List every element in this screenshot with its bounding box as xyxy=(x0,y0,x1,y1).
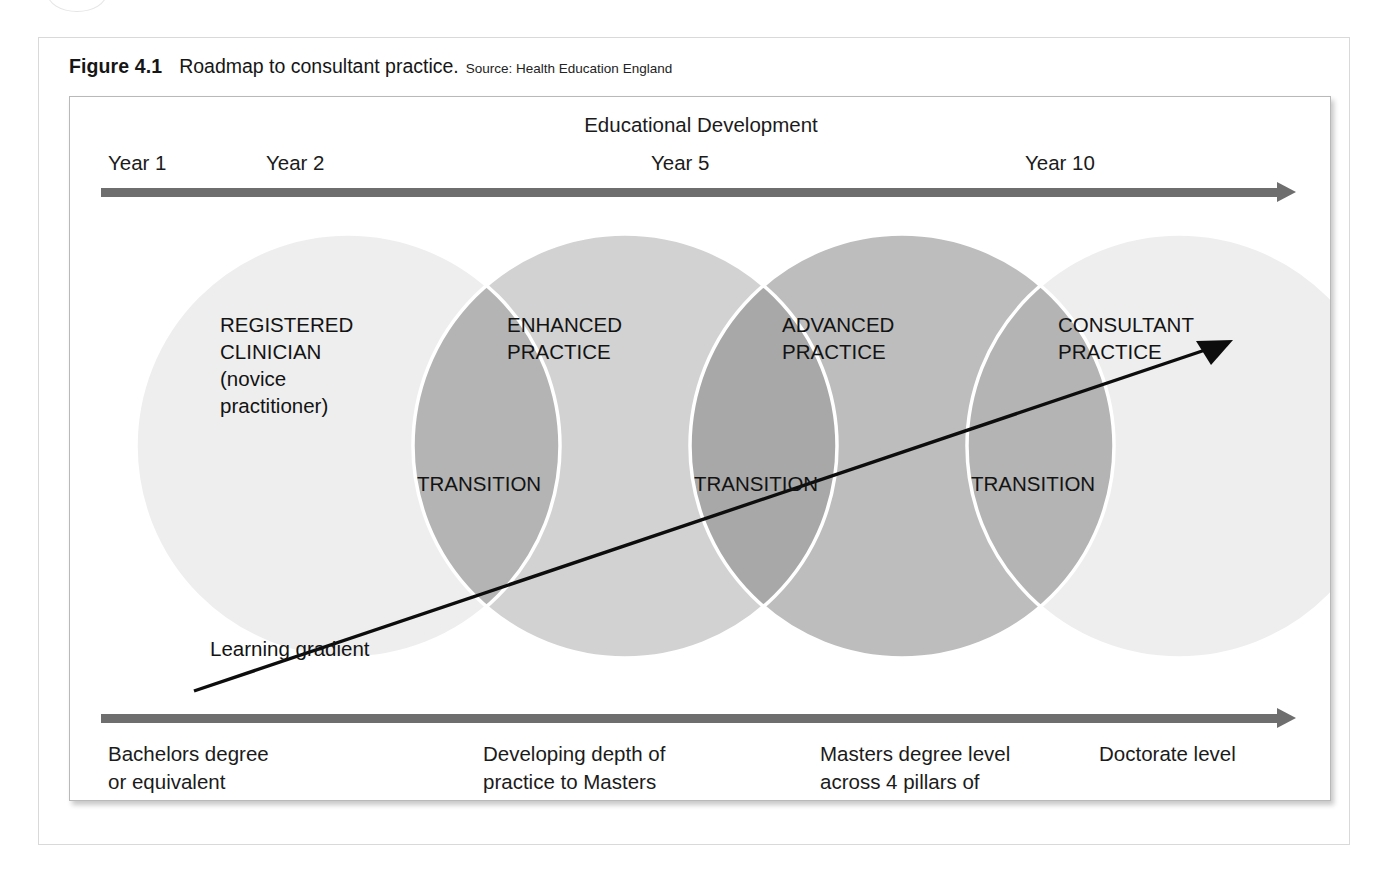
academic-note-1: Bachelors degree or equivalent xyxy=(108,740,269,795)
stage-label-enhanced-practice: ENHANCED PRACTICE xyxy=(507,311,622,365)
transition-label-2: TRANSITION xyxy=(694,472,818,496)
academic-note-4: Doctorate level xyxy=(1099,740,1236,768)
stage-label-registered-clinician: REGISTERED CLINICIAN (novice practitione… xyxy=(220,311,353,419)
learning-gradient-label: Learning gradient xyxy=(210,637,370,661)
page-root: Figure 4.1Roadmap to consultant practice… xyxy=(0,0,1399,884)
figure-number: Figure 4.1 xyxy=(69,55,162,77)
diagram-canvas: Educational Development Year 1 Year 2 Ye… xyxy=(70,97,1331,801)
academic-note-2: Developing depth of practice to Masters … xyxy=(483,740,665,801)
bottom-academic-arrow xyxy=(101,714,1296,723)
stage-label-advanced-practice: ADVANCED PRACTICE xyxy=(782,311,894,365)
transition-label-3: TRANSITION xyxy=(971,472,1095,496)
figure-source: Source: Health Education England xyxy=(466,61,672,76)
transition-label-1: TRANSITION xyxy=(417,472,541,496)
page-top-ghost-mark xyxy=(47,0,107,12)
figure-title: Roadmap to consultant practice. xyxy=(179,55,459,77)
figure-card: Figure 4.1Roadmap to consultant practice… xyxy=(38,37,1350,845)
academic-note-3: Masters degree level across 4 pillars of… xyxy=(820,740,1010,801)
stage-label-consultant-practice: CONSULTANT PRACTICE xyxy=(1058,311,1194,365)
venn-diagram xyxy=(70,97,1331,801)
figure-caption: Figure 4.1Roadmap to consultant practice… xyxy=(69,55,672,78)
bottom-arrow-shaft xyxy=(101,714,1277,723)
diagram-frame: Educational Development Year 1 Year 2 Ye… xyxy=(69,96,1331,801)
bottom-arrow-head xyxy=(1277,708,1296,728)
